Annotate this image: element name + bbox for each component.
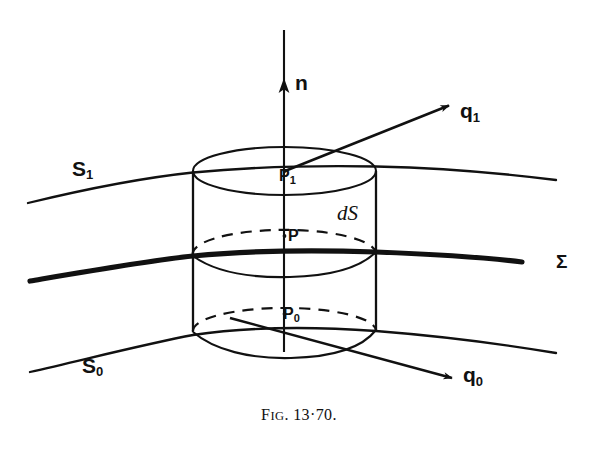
label-interface-sigma: Σ: [556, 252, 567, 271]
figure-caption: FIG. 13·70.: [0, 406, 598, 424]
figure-drawing: [0, 0, 598, 456]
label-point-p: P: [288, 228, 299, 244]
label-point-p1: P1: [279, 168, 296, 186]
flux-arrow-q0: [230, 318, 452, 378]
label-area-element-ds: dS: [337, 203, 358, 224]
label-vector-n: n: [295, 72, 308, 93]
label-surface-s0: S0: [82, 355, 103, 378]
label-vector-q1: q1: [460, 100, 480, 124]
label-vector-q0: q0: [463, 364, 483, 388]
label-point-p0: P0: [283, 306, 300, 324]
figure-container: S1 S0 Σ n q1 q0 P1 P P0 dS FIG. 13·70.: [0, 0, 598, 456]
label-surface-s1: S1: [72, 158, 93, 181]
point-marker-p: [283, 234, 287, 238]
